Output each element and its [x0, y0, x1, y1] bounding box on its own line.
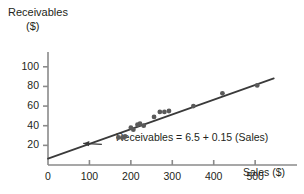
data-point: [191, 104, 196, 109]
y-tick-label: 60: [0, 99, 39, 111]
tick-marks-group: [43, 67, 255, 165]
data-point: [131, 127, 136, 132]
data-point: [167, 109, 172, 114]
data-point: [141, 123, 146, 128]
data-point: [162, 110, 167, 115]
data-point: [152, 114, 157, 119]
scatter-plot-svg: [0, 0, 304, 194]
data-point: [116, 135, 121, 140]
fit-line-segment: [48, 78, 274, 158]
y-tick-label: 80: [0, 79, 39, 91]
x-tick-label: 100: [81, 170, 99, 182]
x-tick-label: 400: [205, 170, 223, 182]
data-point: [255, 83, 260, 88]
y-tick-label: 40: [0, 119, 39, 131]
chart-container: Receivables ($) Sales ($) Receivables = …: [0, 0, 304, 194]
x-tick-label: 0: [45, 170, 51, 182]
x-tick-label: 200: [122, 170, 140, 182]
x-tick-label: 500: [246, 170, 264, 182]
x-tick-label: 300: [164, 170, 182, 182]
axes-group: [48, 52, 297, 165]
data-point: [123, 134, 128, 139]
y-tick-label: 20: [0, 138, 39, 150]
data-point: [157, 110, 162, 115]
y-tick-label: 100: [0, 60, 39, 72]
data-point: [220, 91, 225, 96]
regression-line: [48, 78, 274, 158]
